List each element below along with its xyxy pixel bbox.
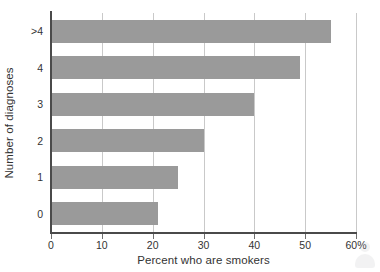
y-tick-label: 0 <box>37 208 43 220</box>
bar <box>51 129 204 152</box>
gridline-30 <box>204 13 205 232</box>
x-tick-label: 10 <box>96 239 108 252</box>
plot-area <box>51 13 356 232</box>
y-axis-line <box>50 11 52 234</box>
gridline-50 <box>305 13 306 232</box>
y-tick-label: 3 <box>37 98 43 110</box>
bar <box>51 166 178 189</box>
y-tick-label: 2 <box>37 135 43 147</box>
gridline-40 <box>254 13 255 232</box>
x-axis-title: Percent who are smokers <box>51 254 356 266</box>
watermark-body <box>355 254 375 268</box>
x-tick-label: 60% <box>345 239 366 252</box>
gridline-60 <box>356 13 357 232</box>
x-tick-label: 0 <box>48 239 54 252</box>
x-tick-label: 30 <box>198 239 210 252</box>
bar <box>51 56 300 79</box>
bar <box>51 93 254 116</box>
x-tick-label: 40 <box>248 239 260 252</box>
y-axis-title-label: Number of diagnoses <box>3 67 15 178</box>
y-axis-title: Number of diagnoses <box>0 13 18 232</box>
x-axis-title-label: Percent who are smokers <box>137 254 270 266</box>
gridline-20 <box>153 13 154 232</box>
bar <box>51 202 158 225</box>
bar <box>51 20 331 43</box>
x-tick-label: 20 <box>147 239 159 252</box>
y-tick-label: >4 <box>31 25 43 37</box>
y-axis-tick-labels: >443210 <box>20 13 47 232</box>
x-tick-label: 50 <box>299 239 311 252</box>
horizontal-bar-chart: Number of diagnoses >443210 010203040506… <box>0 0 380 272</box>
gridline-10 <box>102 13 103 232</box>
y-tick-label: 4 <box>37 62 43 74</box>
x-axis-tick-labels: 0102030405060% <box>0 239 380 253</box>
y-tick-label: 1 <box>37 171 43 183</box>
